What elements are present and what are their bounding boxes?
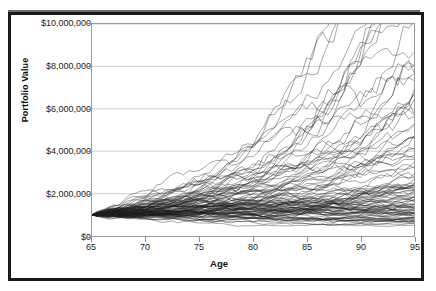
x-tick-mark (253, 237, 254, 242)
x-tick-mark (415, 237, 416, 242)
figure-frame: Portfolio Value Age $0$2,000,000$4,000,0… (8, 12, 424, 281)
x-tick-label: 95 (410, 242, 420, 252)
simulation-path (92, 94, 414, 217)
x-tick-label: 90 (356, 242, 366, 252)
x-tick-label: 70 (140, 242, 150, 252)
y-tick-mark (85, 151, 91, 152)
y-tick-mark (85, 194, 91, 195)
figure-inner: Portfolio Value Age $0$2,000,000$4,000,0… (11, 15, 421, 278)
x-tick-label: 80 (248, 242, 258, 252)
x-tick-label: 85 (302, 242, 312, 252)
y-tick-mark (85, 23, 91, 24)
x-tick-mark (145, 237, 146, 242)
x-tick-mark (361, 237, 362, 242)
y-tick-label: $10,000,000 (41, 18, 91, 28)
x-tick-mark (307, 237, 308, 242)
x-tick-mark (91, 237, 92, 242)
x-tick-label: 75 (194, 242, 204, 252)
y-tick-mark (85, 109, 91, 110)
simulation-paths (92, 24, 414, 226)
x-tick-mark (199, 237, 200, 242)
simulation-path (92, 48, 414, 215)
x-tick-label: 65 (86, 242, 96, 252)
monte-carlo-fan-chart (92, 24, 414, 236)
x-axis-tick-labels: 65707580859095 (11, 242, 427, 258)
plot-area (91, 23, 415, 237)
y-tick-mark (85, 66, 91, 67)
